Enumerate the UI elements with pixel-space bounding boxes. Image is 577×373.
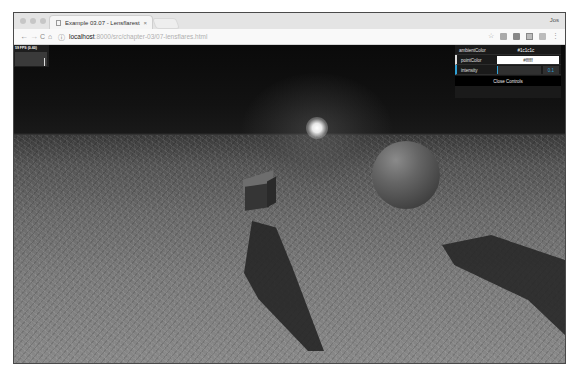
home-button[interactable]: ⌂ bbox=[48, 32, 52, 41]
tab-title: Example 03.07 - Lensflarest bbox=[65, 20, 143, 26]
close-controls-button[interactable]: Close Controls bbox=[455, 76, 561, 86]
fps-graph-bar bbox=[44, 58, 45, 66]
intensity-slider-fill bbox=[497, 66, 498, 74]
forward-button[interactable]: → bbox=[30, 32, 38, 41]
tab-close-button[interactable]: × bbox=[143, 20, 147, 26]
extension-icon[interactable] bbox=[526, 33, 533, 40]
point-color-input[interactable]: #ffffff bbox=[497, 56, 559, 64]
new-tab-button[interactable] bbox=[152, 18, 180, 29]
browser-toolbar: ← → C ⌂ ⓘ localhost :8000/src/chapter-03… bbox=[14, 29, 565, 45]
site-info-icon[interactable]: ⓘ bbox=[58, 32, 65, 42]
control-intensity[interactable]: intensity 0.1 bbox=[455, 65, 561, 75]
cube-front-face bbox=[245, 183, 269, 210]
browser-window: Example 03.07 - Lensflarest × Jos ← → C … bbox=[13, 12, 566, 364]
url-path: :8000/src/chapter-03/07-lensflares.html bbox=[95, 33, 208, 40]
extension-icon[interactable] bbox=[500, 33, 507, 40]
ambient-color-input[interactable]: #1c1c1c bbox=[495, 46, 557, 54]
lens-flare-light bbox=[306, 117, 328, 139]
back-button[interactable]: ← bbox=[20, 32, 28, 41]
extension-icon[interactable] bbox=[513, 33, 520, 40]
sphere bbox=[372, 141, 440, 209]
extension-icon[interactable] bbox=[539, 33, 546, 40]
address-bar[interactable]: ⓘ localhost :8000/src/chapter-03/07-lens… bbox=[58, 31, 498, 42]
minimize-window-button[interactable] bbox=[30, 18, 36, 24]
tab-bar: Example 03.07 - Lensflarest × Jos bbox=[14, 13, 565, 29]
profile-button[interactable]: Jos bbox=[550, 17, 559, 23]
intensity-label: intensity bbox=[461, 68, 478, 73]
control-point-color[interactable]: pointColor #ffffff bbox=[455, 55, 561, 65]
close-window-button[interactable] bbox=[20, 18, 26, 24]
window-controls bbox=[20, 18, 46, 24]
tab-active[interactable]: Example 03.07 - Lensflarest × bbox=[49, 15, 153, 29]
cube-side-face bbox=[267, 176, 276, 207]
fps-label: 59 FPS (0-60) bbox=[15, 46, 37, 50]
control-ambient-color[interactable]: ambientColor #1c1c1c bbox=[455, 45, 561, 55]
cube bbox=[243, 175, 275, 209]
point-color-label: pointColor bbox=[461, 58, 482, 63]
webgl-canvas[interactable]: 59 FPS (0-60) ambientColor #1c1c1c point… bbox=[14, 45, 565, 363]
menu-icon[interactable]: ⋮ bbox=[552, 32, 559, 40]
intensity-slider[interactable] bbox=[497, 66, 541, 74]
url-host: localhost bbox=[69, 33, 95, 40]
maximize-window-button[interactable] bbox=[40, 18, 46, 24]
intensity-value-input[interactable]: 0.1 bbox=[543, 66, 559, 74]
stats-panel[interactable]: 59 FPS (0-60) bbox=[14, 45, 49, 67]
star-icon[interactable]: ☆ bbox=[488, 32, 494, 40]
toolbar-icons: ☆ ⋮ bbox=[488, 32, 559, 40]
page-icon bbox=[56, 20, 61, 26]
dat-gui-controls: ambientColor #1c1c1c pointColor #ffffff … bbox=[455, 45, 561, 98]
ambient-color-label: ambientColor bbox=[459, 48, 486, 53]
reload-button[interactable]: C bbox=[40, 32, 45, 41]
fps-graph bbox=[15, 52, 47, 66]
